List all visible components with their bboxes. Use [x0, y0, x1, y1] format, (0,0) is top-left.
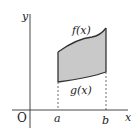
origin-label: O — [17, 111, 27, 125]
area-diagram: y x O a b f(x) g(x) — [0, 0, 140, 140]
y-axis-label: y — [21, 10, 29, 23]
x-axis-label: x — [125, 111, 132, 124]
g-label: g(x) — [70, 84, 92, 97]
f-label: f(x) — [71, 24, 91, 37]
a-label: a — [54, 112, 61, 125]
b-label: b — [102, 114, 109, 127]
